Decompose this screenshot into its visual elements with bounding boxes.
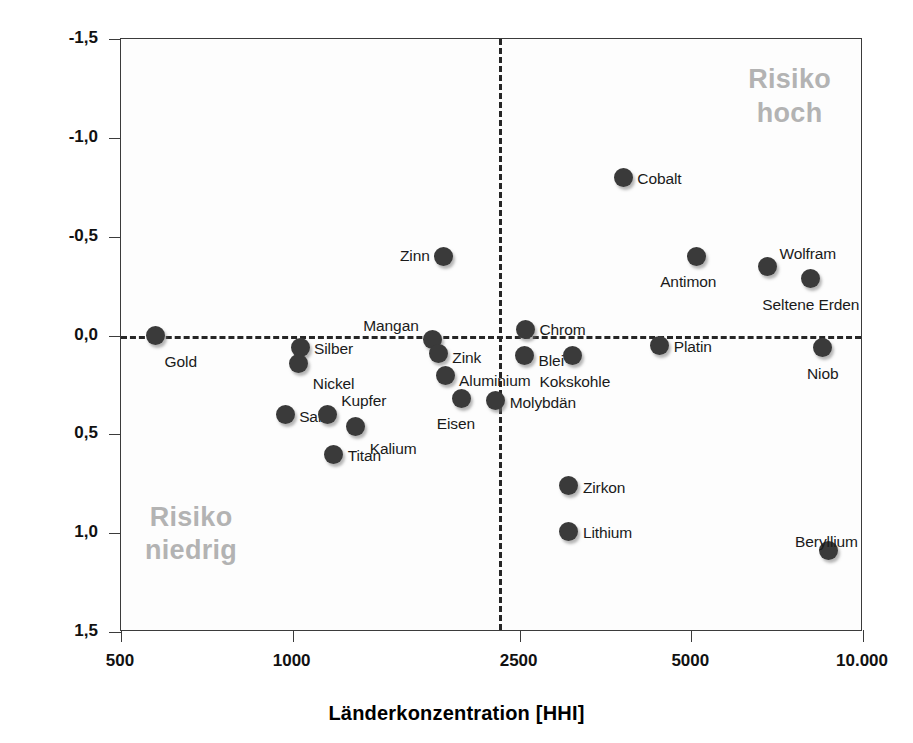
y-tick [109, 632, 121, 633]
data-point-label: Kokskohle [540, 373, 611, 390]
y-tick [109, 138, 121, 139]
data-point[interactable] [559, 522, 578, 541]
data-point[interactable] [434, 247, 453, 266]
data-point-label: Niob [807, 365, 838, 382]
data-point-label: Lithium [583, 525, 632, 542]
data-point[interactable] [801, 269, 820, 288]
x-tick [691, 630, 692, 642]
x-axis-title: Länderkonzentration [HHI] [0, 702, 913, 725]
data-point[interactable] [346, 417, 365, 436]
data-point[interactable] [146, 326, 165, 345]
y-tick-label: 0,5 [0, 423, 98, 443]
data-point[interactable] [452, 389, 471, 408]
data-point-label: Chrom [540, 321, 586, 338]
reference-line-horizontal [121, 336, 861, 339]
y-tick [109, 237, 121, 238]
data-point[interactable] [650, 336, 669, 355]
x-tick [121, 630, 122, 642]
data-point[interactable] [813, 338, 832, 357]
data-point[interactable] [614, 168, 633, 187]
data-point-label: Zirkon [583, 479, 625, 496]
data-point-label: Wolfram [779, 246, 836, 263]
y-tick-label: 1,0 [0, 522, 98, 542]
data-point-label: Kupfer [341, 392, 386, 409]
data-point-label: Beryllium [795, 533, 858, 550]
data-point[interactable] [436, 366, 455, 385]
data-point-label: Mangan [363, 318, 418, 335]
data-point-label: Zink [452, 350, 481, 367]
data-point-label: Zinn [400, 248, 430, 265]
y-tick [109, 533, 121, 534]
data-point[interactable] [318, 405, 337, 424]
reference-line-vertical [499, 39, 502, 630]
data-point-label: Seltene Erden [762, 296, 859, 313]
data-point[interactable] [429, 344, 448, 363]
plot-area: Risiko hoch Risiko niedrig GoldSilberNic… [120, 38, 862, 631]
quadrant-label-high-risk: Risiko hoch [748, 63, 831, 131]
x-tick-label: 1000 [273, 651, 311, 671]
x-tick [293, 630, 294, 642]
x-tick-label: 5000 [671, 651, 709, 671]
scatter-chart: Gewichtetes Länderrisiko [GLR] Länderkon… [0, 0, 913, 743]
data-point-label: Aluminium [459, 372, 530, 389]
y-tick-label: -1,5 [0, 28, 98, 48]
data-point-label: Nickel [313, 375, 355, 392]
data-point[interactable] [563, 346, 582, 365]
data-point[interactable] [516, 320, 535, 339]
x-tick-label: 10.000 [836, 651, 888, 671]
quadrant-label-low-risk: Risiko niedrig [145, 501, 237, 569]
x-tick-label: 500 [106, 651, 134, 671]
data-point-label: Silber [314, 341, 353, 358]
y-tick-label: 1,5 [0, 621, 98, 641]
data-point[interactable] [559, 476, 578, 495]
data-point-label: Kalium [370, 440, 417, 457]
y-tick-label: -0,5 [0, 226, 98, 246]
y-tick-label: 0,0 [0, 325, 98, 345]
data-point[interactable] [515, 346, 534, 365]
data-point[interactable] [486, 391, 505, 410]
data-point-label: Antimon [660, 273, 716, 290]
x-tick-label: 2500 [500, 651, 538, 671]
x-tick [520, 630, 521, 642]
data-point-label: Blei [539, 353, 564, 370]
y-tick [109, 336, 121, 337]
data-point[interactable] [276, 405, 295, 424]
y-tick-label: -1,0 [0, 127, 98, 147]
y-tick [109, 39, 121, 40]
y-tick [109, 434, 121, 435]
data-point-label: Platin [674, 339, 712, 356]
data-point[interactable] [687, 247, 706, 266]
data-point[interactable] [324, 445, 343, 464]
data-point-label: Gold [165, 353, 197, 370]
data-point[interactable] [289, 354, 308, 373]
data-point-label: Cobalt [637, 171, 681, 188]
data-point-label: Eisen [437, 415, 475, 432]
data-point[interactable] [758, 257, 777, 276]
data-point-label: Molybdän [510, 394, 576, 411]
x-tick [863, 630, 864, 642]
